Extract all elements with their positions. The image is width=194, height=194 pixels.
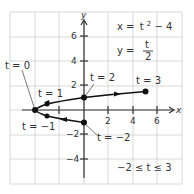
point-t-3 (143, 89, 149, 95)
y-tick-neg4: −4 (66, 154, 80, 164)
label-t-2: t = 2 (90, 72, 115, 83)
domain-label: −2 ≤ t ≤ 3 (117, 162, 172, 173)
axes (22, 20, 174, 178)
y-axis-label: y (80, 10, 87, 20)
label-t-0: t = 0 (5, 60, 30, 71)
point-labels: t = 0 t = 1 t = 2 t = 3 t = −1 t = −2 (5, 60, 161, 143)
arrow-icon (114, 92, 121, 97)
label-t-neg2: t = −2 (97, 132, 130, 143)
y-tick-neg2: −2 (66, 129, 79, 139)
parametric-plot: x y 2 4 6 6 4 2 −2 −4 t = 0 t = 1 t = 2 (0, 0, 194, 194)
y-tick-2: 2 (71, 80, 77, 90)
label-t-3: t = 3 (136, 75, 161, 86)
point-t-neg2 (81, 120, 87, 126)
equation-y-lhs: y = (117, 45, 134, 56)
equation-y-num: t (145, 39, 149, 50)
x-axis-label: x (175, 105, 182, 115)
point-t-2 (81, 95, 87, 101)
point-t-1 (45, 102, 50, 107)
point-t-0 (32, 107, 38, 113)
label-t-1: t = 1 (38, 88, 63, 99)
y-tick-6: 6 (71, 31, 77, 41)
x-tick-6: 6 (154, 116, 160, 126)
point-t-neg1 (45, 114, 50, 119)
equation-y-den: 2 (145, 51, 151, 62)
grid (10, 12, 182, 184)
x-tick-2: 2 (105, 116, 111, 126)
label-t-neg1: t = −1 (22, 121, 55, 132)
equation-x: x = t 2 − 4 (117, 17, 172, 32)
x-tick-4: 4 (130, 116, 136, 126)
arrow-icon (60, 117, 67, 122)
y-tick-4: 4 (71, 56, 77, 66)
equations: x = t 2 − 4 y = t 2 (117, 17, 172, 62)
